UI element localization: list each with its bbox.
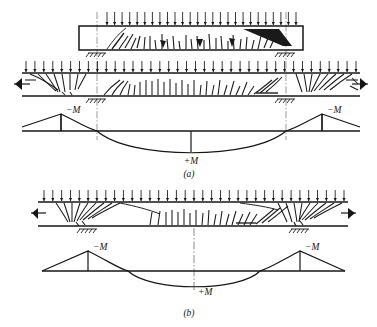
load-arrow <box>105 61 108 72</box>
load-arrow <box>256 61 259 72</box>
load-arrow <box>143 12 146 25</box>
support-group-middle <box>86 99 295 103</box>
load-arrow <box>95 190 98 201</box>
load-arrow <box>342 190 345 201</box>
panel-b: −M −M +M (b) <box>31 190 356 319</box>
load-arrow <box>310 61 313 72</box>
load-arrow <box>96 61 99 72</box>
positive-moment-label-b: +M <box>198 287 213 297</box>
crack-pattern-top <box>107 28 292 49</box>
load-arrow <box>226 12 229 25</box>
load-arrow <box>140 61 143 72</box>
positive-moment-label: +M <box>184 156 199 166</box>
load-arrow <box>173 12 176 25</box>
load-arrow <box>247 61 250 72</box>
load-arrow <box>230 61 233 72</box>
figure-container: −M −M +M (a) <box>0 0 377 327</box>
load-arrow <box>181 12 184 25</box>
load-arrow <box>242 12 245 25</box>
load-arrow <box>176 61 179 72</box>
load-arrow <box>307 190 310 201</box>
load-arrow <box>121 12 124 25</box>
load-arrow <box>196 12 199 25</box>
load-arrow <box>234 12 237 25</box>
load-arrow <box>219 190 222 201</box>
load-arrow <box>265 61 268 72</box>
load-arrow <box>301 61 304 72</box>
load-arrow <box>221 61 224 72</box>
load-arrow <box>257 12 260 25</box>
negative-moment-left <box>22 114 61 131</box>
load-arrow <box>201 190 204 201</box>
negative-moment-curve-left <box>61 114 97 131</box>
load-arrow <box>272 190 275 201</box>
load-arrow <box>131 190 134 201</box>
load-arrow <box>51 190 54 201</box>
support-group-b <box>77 229 309 233</box>
load-arrow <box>319 61 322 72</box>
load-arrow <box>274 61 277 72</box>
beam-elevation-b <box>31 190 356 233</box>
load-arrow <box>279 12 282 25</box>
load-arrow <box>131 61 134 72</box>
negative-moment-label-right: −M <box>327 105 342 115</box>
load-arrow <box>281 190 284 201</box>
load-arrow <box>237 190 240 201</box>
moment-diagram-b: −M −M +M <box>42 242 345 297</box>
panel-caption-b: (b) <box>183 308 194 319</box>
load-arrow <box>114 61 117 72</box>
load-arrow <box>346 61 349 72</box>
load-arrow <box>87 190 90 201</box>
load-arrow <box>158 61 161 72</box>
negative-moment-label-left: −M <box>66 105 81 115</box>
load-arrow <box>113 12 116 25</box>
interior-support-left <box>86 99 106 103</box>
load-arrow <box>185 61 188 72</box>
interior-support-left <box>86 53 106 57</box>
load-arrow <box>69 190 72 201</box>
load-arrow <box>249 12 252 25</box>
negative-moment-curve-right <box>286 114 322 131</box>
load-arrow <box>210 190 213 201</box>
load-arrow <box>328 61 331 72</box>
beam-elevation-top <box>79 12 303 57</box>
load-arrow <box>272 12 275 25</box>
load-arrow <box>294 12 297 25</box>
load-arrow <box>140 190 143 201</box>
load-arrow <box>292 61 295 72</box>
support-right-b <box>289 229 309 233</box>
interior-support-right <box>275 99 295 103</box>
load-arrow <box>24 61 27 72</box>
load-arrow <box>60 190 63 201</box>
load-arrow <box>33 61 36 72</box>
load-arrow <box>325 190 328 201</box>
load-arrow <box>136 12 139 25</box>
negative-moment-curve-right-b <box>260 251 300 271</box>
load-arrow <box>60 61 63 72</box>
load-arrow <box>184 190 187 201</box>
moment-diagram-a: −M −M +M <box>22 105 360 166</box>
load-arrow <box>254 190 257 201</box>
load-arrow <box>219 12 222 25</box>
load-arrow <box>87 61 90 72</box>
load-arrow <box>239 61 242 72</box>
negative-moment-label-left-b: −M <box>93 242 108 252</box>
load-arrow <box>42 190 45 201</box>
load-arrow <box>166 12 169 25</box>
load-arrow <box>105 12 108 25</box>
crack-pattern-b <box>56 203 342 226</box>
uniform-load-arrows-middle <box>24 61 357 72</box>
panel-a: −M −M +M (a) <box>14 12 368 180</box>
load-arrow <box>290 190 293 201</box>
negative-moment-curve-left-b <box>88 251 128 271</box>
uniform-load-arrows-top <box>105 12 297 25</box>
structural-beam-moment-diagram: −M −M +M (a) <box>0 0 377 327</box>
load-arrow <box>212 61 215 72</box>
load-arrow <box>149 61 152 72</box>
load-arrow <box>122 190 125 201</box>
load-arrow <box>354 61 357 72</box>
load-arrow <box>113 190 116 201</box>
load-arrow <box>151 12 154 25</box>
load-arrow <box>104 190 107 201</box>
load-arrow <box>228 190 231 201</box>
